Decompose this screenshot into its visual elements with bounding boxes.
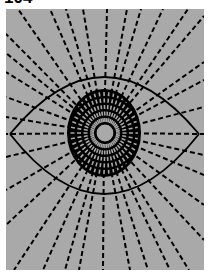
eye-illustration (0, 0, 208, 275)
pupil (96, 124, 114, 142)
